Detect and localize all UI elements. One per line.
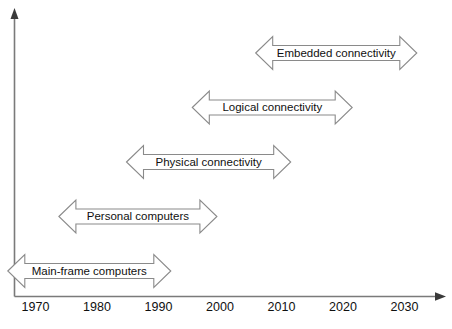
timeline-banner: Main-frame computers: [8, 255, 171, 288]
tick-label-group: 1970198019902000201020202030: [22, 300, 419, 314]
diagram-canvas: Main-frame computersPersonal computersPh…: [0, 0, 452, 329]
x-axis-tick-label: 2000: [206, 300, 234, 314]
x-axis-tick-label: 2030: [391, 300, 419, 314]
x-axis-tick-label: 1990: [145, 300, 173, 314]
x-axis-tick-label: 1970: [22, 300, 50, 314]
banner-group: Main-frame computersPersonal computersPh…: [8, 37, 417, 288]
banner-label: Main-frame computers: [32, 265, 147, 277]
timeline-diagram: Main-frame computersPersonal computersPh…: [0, 0, 452, 329]
timeline-banner: Embedded connectivity: [256, 37, 417, 70]
banner-label: Embedded connectivity: [277, 47, 396, 59]
x-axis-tick-label: 1980: [83, 300, 111, 314]
timeline-banner: Physical connectivity: [127, 146, 291, 179]
x-axis-tick-label: 2020: [329, 300, 357, 314]
timeline-banner: Logical connectivity: [192, 91, 352, 124]
banner-label: Logical connectivity: [222, 101, 322, 113]
vertical-axis: [11, 8, 19, 297]
banner-label: Physical connectivity: [156, 156, 262, 168]
x-axis-tick-label: 2010: [268, 300, 296, 314]
timeline-banner: Personal computers: [59, 200, 217, 233]
banner-label: Personal computers: [87, 210, 190, 222]
